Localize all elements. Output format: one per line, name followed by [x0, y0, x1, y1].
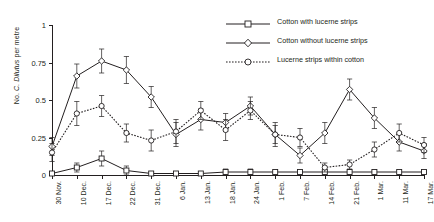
- x-tick-label: 7 Feb.: [303, 181, 310, 201]
- x-tick-mark: [77, 175, 78, 179]
- x-tick-label: 18 Jan.: [229, 181, 236, 204]
- data-point-marker: [149, 171, 154, 176]
- data-point-marker: [98, 58, 104, 64]
- legend-label: Cotton with lucerne strips: [277, 18, 358, 25]
- data-point-marker: [297, 135, 302, 140]
- data-point-marker: [347, 162, 352, 167]
- x-tick-mark: [275, 175, 276, 179]
- y-tick-label: 0.75: [31, 58, 46, 67]
- data-point-marker: [397, 170, 402, 175]
- data-point-marker: [174, 171, 179, 176]
- data-point-marker: [124, 130, 129, 135]
- data-point-marker: [198, 171, 203, 176]
- data-point-marker: [99, 156, 104, 161]
- data-point-marker: [421, 142, 426, 147]
- data-point-marker: [223, 127, 228, 132]
- data-point-marker: [74, 73, 80, 79]
- legend-item: Cotton without lucerne strips: [226, 31, 426, 50]
- data-point-marker: [173, 129, 178, 134]
- y-axis-title: No. C. Dilutus per metre: [13, 6, 20, 126]
- x-tick-mark: [424, 175, 425, 179]
- x-tick-label: 1 Feb.: [278, 181, 285, 201]
- data-point-marker: [397, 130, 402, 135]
- x-tick-mark: [250, 175, 251, 179]
- series-line: [52, 106, 424, 168]
- x-tick-mark: [226, 175, 227, 179]
- y-axis-title-suffix: per metre: [13, 27, 20, 60]
- x-tick-label: 31 Dec.: [154, 181, 161, 205]
- data-point-marker: [322, 165, 327, 170]
- x-tick-label: 13 Jan.: [204, 181, 211, 204]
- y-tick-label: 0: [42, 171, 46, 180]
- data-point-marker: [99, 103, 104, 108]
- x-tick-mark: [126, 175, 127, 179]
- x-axis-line: [52, 175, 424, 176]
- data-point-marker: [248, 108, 253, 113]
- legend-marker-circle-icon: [226, 54, 270, 66]
- series-1: [49, 151, 426, 176]
- x-tick-label: 22 Dec.: [129, 181, 136, 205]
- legend-label: Cotton without lucerne strips: [277, 37, 368, 44]
- legend-marker-diamond-icon: [226, 35, 270, 47]
- x-tick-label: 21 Feb.: [353, 181, 360, 205]
- y-tick-label: 0.25: [31, 133, 46, 142]
- y-axis-title-prefix: No.: [13, 91, 20, 104]
- x-tick-mark: [102, 175, 103, 179]
- data-point-marker: [50, 171, 55, 176]
- x-tick-label: 17 Dec.: [105, 181, 112, 205]
- y-tick-label: 1: [42, 21, 46, 30]
- data-point-marker: [49, 150, 54, 155]
- data-point-marker: [372, 147, 377, 152]
- x-tick-label: 11 Mar.: [402, 181, 409, 204]
- data-point-marker: [273, 170, 278, 175]
- x-tick-label: 30 Nov.: [55, 181, 62, 205]
- data-point-marker: [198, 108, 203, 113]
- data-point-marker: [74, 165, 79, 170]
- x-tick-mark: [325, 175, 326, 179]
- x-tick-mark: [350, 175, 351, 179]
- x-tick-label: 10 Dec.: [80, 181, 87, 205]
- legend-label: Lucerne strips within cotton: [277, 56, 364, 63]
- series-line: [52, 159, 424, 174]
- series-line: [52, 61, 424, 156]
- data-point-marker: [273, 132, 278, 137]
- legend-item: Cotton with lucerne strips: [226, 12, 426, 31]
- x-tick-mark: [374, 175, 375, 179]
- data-point-marker: [149, 138, 154, 143]
- data-point-marker: [372, 170, 377, 175]
- data-point-marker: [298, 170, 303, 175]
- legend-item: Lucerne strips within cotton: [226, 50, 426, 69]
- legend-marker-square-icon: [226, 16, 270, 28]
- data-point-marker: [223, 170, 228, 175]
- x-tick-mark: [300, 175, 301, 179]
- data-point-marker: [347, 170, 352, 175]
- x-tick-label: 1 Mar.: [377, 181, 384, 200]
- x-tick-label: 24 Jan.: [253, 181, 260, 204]
- data-point-marker: [74, 111, 79, 116]
- x-tick-label: 17 Mar.: [427, 181, 434, 204]
- data-point-marker: [248, 170, 253, 175]
- y-axis-title-species: C. Dilutus: [13, 60, 20, 91]
- legend: Cotton with lucerne stripsCotton without…: [226, 12, 426, 69]
- data-point-marker: [124, 168, 129, 173]
- x-tick-label: 14 Feb.: [328, 181, 335, 205]
- x-tick-mark: [399, 175, 400, 179]
- data-point-marker: [422, 170, 427, 175]
- x-tick-label: 6 Jan.: [179, 181, 186, 200]
- y-tick-label: 0.5: [36, 96, 46, 105]
